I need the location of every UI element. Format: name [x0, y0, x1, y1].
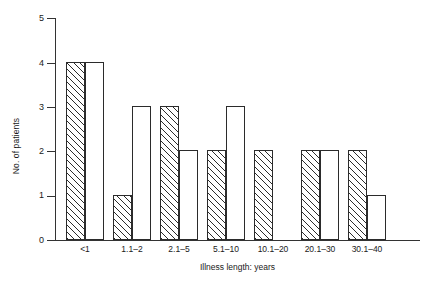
x-tick-label-6: 30.1–40 [337, 245, 397, 254]
bar-hatched-6 [348, 150, 367, 240]
bar-open-3 [226, 106, 245, 240]
y-axis-title-text: No. of patients [11, 86, 21, 206]
x-axis-line [55, 240, 420, 241]
bar-hatched-2 [160, 106, 179, 240]
y-tick-label-4: 4 [28, 59, 44, 68]
bar-hatched-4 [254, 150, 273, 240]
bar-open-6 [367, 195, 386, 240]
y-axis-line [55, 18, 56, 241]
bar-open-0 [85, 62, 104, 240]
y-tick-label-0: 0 [28, 236, 44, 245]
bar-hatched-5 [301, 150, 320, 240]
bar-chart: No. of patients 0 1 2 3 4 5 <1 1.1–2 2.1… [0, 0, 429, 281]
bar-hatched-3 [207, 150, 226, 240]
y-tick-label-3: 3 [28, 103, 44, 112]
y-tick-label-2: 2 [28, 147, 44, 156]
bar-open-5 [320, 150, 339, 240]
bar-hatched-1 [113, 195, 132, 240]
y-axis-title: No. of patients [0, 86, 16, 206]
y-tick-label-1: 1 [28, 191, 44, 200]
bar-hatched-0 [66, 62, 85, 240]
bar-open-1 [132, 106, 151, 240]
x-axis-title: Illness length: years [55, 262, 420, 272]
bar-open-2 [179, 150, 198, 240]
y-tick-label-5: 5 [28, 14, 44, 23]
